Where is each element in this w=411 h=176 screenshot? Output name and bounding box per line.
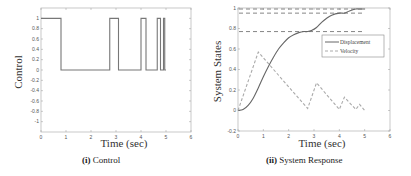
y-tick-label: -0.6 <box>30 98 39 104</box>
x-axis-label: Time (sec) <box>101 137 148 150</box>
figure: 012345610.80.60.40.20-0.2-0.4-0.6-0.8-1T… <box>0 0 411 176</box>
x-tick-label: 0 <box>40 134 43 140</box>
caption-control: (i) Control <box>82 155 120 165</box>
y-tick-label: -0.2 <box>227 128 236 134</box>
y-tick-label: -0.8 <box>30 108 39 114</box>
x-axis-label: Time (sec) <box>299 137 346 150</box>
x-tick-label: 2 <box>287 133 290 139</box>
y-tick-label: 0 <box>36 67 39 73</box>
y-tick-label: 0.6 <box>32 36 39 42</box>
y-tick-label: -0.4 <box>30 87 39 93</box>
caption-system-response: (ii) System Response <box>266 155 343 165</box>
y-tick-label: 0.2 <box>32 56 39 62</box>
y-tick-label: 0.8 <box>32 25 39 31</box>
system-response-plot: 012345610.80.60.40.20-0.2DisplacementVel… <box>211 5 392 150</box>
x-tick-label: 5 <box>165 134 168 140</box>
x-tick-label: 0 <box>237 133 240 139</box>
y-tick-label: -1 <box>35 118 40 124</box>
legend-label: Velocity <box>340 48 359 54</box>
caption-system-response-text: System Response <box>279 155 342 165</box>
x-tick-label: 1 <box>65 134 68 140</box>
caption-control-prefix: (i) <box>82 155 91 165</box>
y-tick-label: 0.4 <box>229 66 236 72</box>
control-plot: 012345610.80.60.40.20-0.2-0.4-0.6-0.8-1T… <box>12 8 193 150</box>
x-tick-label: 6 <box>190 134 193 140</box>
y-tick-label: -0.2 <box>30 77 39 83</box>
caption-system-response-prefix: (ii) <box>266 155 277 165</box>
caption-control-text: Control <box>93 155 121 165</box>
y-tick-label: 0.2 <box>229 87 236 93</box>
y-tick-label: 1 <box>36 15 39 21</box>
y-tick-label: 1 <box>233 5 236 11</box>
x-tick-label: 2 <box>90 134 93 140</box>
x-tick-label: 6 <box>389 133 392 139</box>
x-tick-label: 1 <box>262 133 265 139</box>
y-tick-label: 0.8 <box>229 25 236 31</box>
legend-label: Displacement <box>340 39 371 45</box>
y-tick-label: 0 <box>233 107 236 113</box>
x-tick-label: 5 <box>363 133 366 139</box>
axes-box <box>238 8 390 131</box>
y-tick-label: 0.6 <box>229 46 236 52</box>
y-tick-label: 0.4 <box>32 46 39 52</box>
y-axis-label: System States <box>211 41 223 102</box>
y-axis-label: Control <box>12 55 24 89</box>
